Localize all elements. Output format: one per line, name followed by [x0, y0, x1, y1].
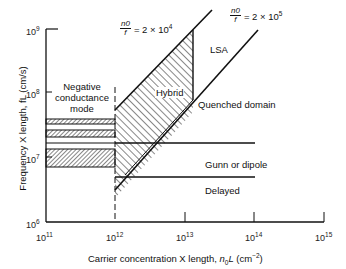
x-tick-1e14: 1014 [245, 230, 262, 243]
label-hybrid: Hybrid [155, 87, 184, 98]
label-n0f-2e5: n0f = 2 × 105 [230, 7, 282, 24]
x-tick-1e11: 1011 [36, 230, 53, 243]
y-tick-1e6: 106 [26, 217, 40, 230]
diagram-canvas [0, 0, 346, 269]
negative-conductance-bands [46, 119, 115, 167]
y-axis-title: Frequency X length, fL (cm/s) [17, 49, 28, 209]
x-axis-title: Carrier concentration X length, n0L (cm−… [88, 250, 263, 268]
label-n0f-2e4: n0f = 2 × 104 [120, 20, 172, 37]
y-tick-1e7: 107 [26, 152, 40, 165]
x-tick-1e12: 1012 [106, 230, 123, 243]
x-tick-1e13: 1013 [176, 230, 193, 243]
mode-diagram: 109 108 107 106 1011 1012 1013 1014 1015… [0, 0, 346, 269]
hybrid-region [115, 30, 193, 186]
label-gunn-dipole: Gunn or dipole [205, 159, 267, 170]
y-tick-1e9: 109 [26, 24, 40, 37]
x-tick-1e15: 1015 [315, 230, 332, 243]
label-lsa: LSA [210, 44, 228, 55]
y-tick-1e8: 108 [26, 87, 40, 100]
label-negative-conductance: Negative conductance mode [52, 81, 112, 114]
label-delayed: Delayed [205, 185, 240, 196]
label-quenched-domain: Quenched domain [198, 99, 276, 110]
